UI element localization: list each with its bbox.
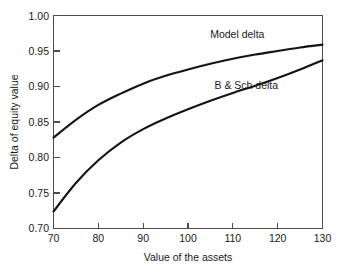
series-annotation-model-delta: Model delta [210, 28, 264, 40]
series-line-bsch-delta [54, 60, 323, 211]
x-tick-labels: 70 80 90 100 110 120 130 [48, 232, 332, 244]
y-tick-label: 0.75 [29, 187, 50, 199]
y-axis-title: Delta of equity value [8, 74, 20, 169]
x-axis-title: Value of the assets [144, 251, 233, 263]
x-tick-label: 90 [137, 232, 149, 244]
x-tick-label: 130 [314, 232, 332, 244]
x-tick-label: 100 [179, 232, 197, 244]
chart-figure: 0.70 0.75 0.80 0.85 0.90 0.95 1.00 70 80… [0, 0, 340, 270]
y-tick-label: 0.95 [29, 45, 50, 57]
y-axis-ticks [54, 16, 60, 229]
series-annotation-bsch-delta: B & Sch delta [214, 79, 278, 91]
y-tick-label: 0.85 [29, 116, 50, 128]
y-tick-label: 0.70 [29, 222, 50, 234]
x-axis-ticks [54, 223, 323, 229]
line-chart: 0.70 0.75 0.80 0.85 0.90 0.95 1.00 70 80… [0, 0, 340, 270]
x-tick-label: 80 [92, 232, 104, 244]
y-tick-label: 0.90 [29, 80, 50, 92]
x-tick-label: 110 [224, 232, 241, 244]
x-tick-label: 70 [48, 232, 60, 244]
y-tick-label: 0.80 [29, 151, 50, 163]
plot-frame [54, 16, 323, 229]
x-tick-label: 120 [269, 232, 287, 244]
y-tick-labels: 0.70 0.75 0.80 0.85 0.90 0.95 1.00 [29, 10, 50, 235]
y-tick-label: 1.00 [29, 10, 50, 22]
series-line-model-delta [54, 45, 323, 138]
